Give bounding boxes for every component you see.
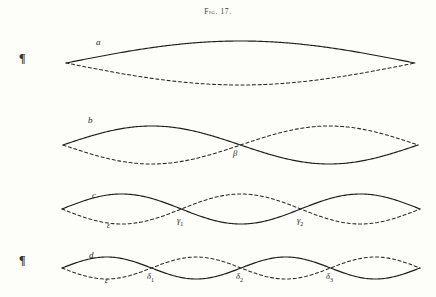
figure-root: Fig. 17. ¶ ¶ abβcεγ1γ2dεδ1δ2δ3 xyxy=(0,0,436,297)
wave-curve-dashed-c xyxy=(62,194,420,224)
wave-label-c: c xyxy=(92,191,96,200)
standing-wave-diagram xyxy=(0,0,436,297)
node-label-d-2: δ2 xyxy=(236,272,243,283)
node-label-b-1: β xyxy=(233,149,237,158)
wave-curve-solid-c xyxy=(62,194,420,224)
node-label-d-3: δ3 xyxy=(326,272,333,283)
node-label-c-1: γ1 xyxy=(177,216,183,227)
wave-label-d: d xyxy=(89,251,94,260)
wave-curve-dashed-b xyxy=(63,126,418,164)
wave-label-b: b xyxy=(88,116,93,125)
wave-label-a: a xyxy=(96,38,101,47)
wave-curve-solid-a xyxy=(66,41,415,63)
wave-secondary-label-c: ε xyxy=(107,222,110,230)
wave-secondary-label-d: ε xyxy=(105,277,108,285)
node-label-c-2: γ2 xyxy=(297,216,303,227)
node-label-d-1: δ1 xyxy=(147,272,154,283)
wave-curve-dashed-a xyxy=(66,63,415,85)
